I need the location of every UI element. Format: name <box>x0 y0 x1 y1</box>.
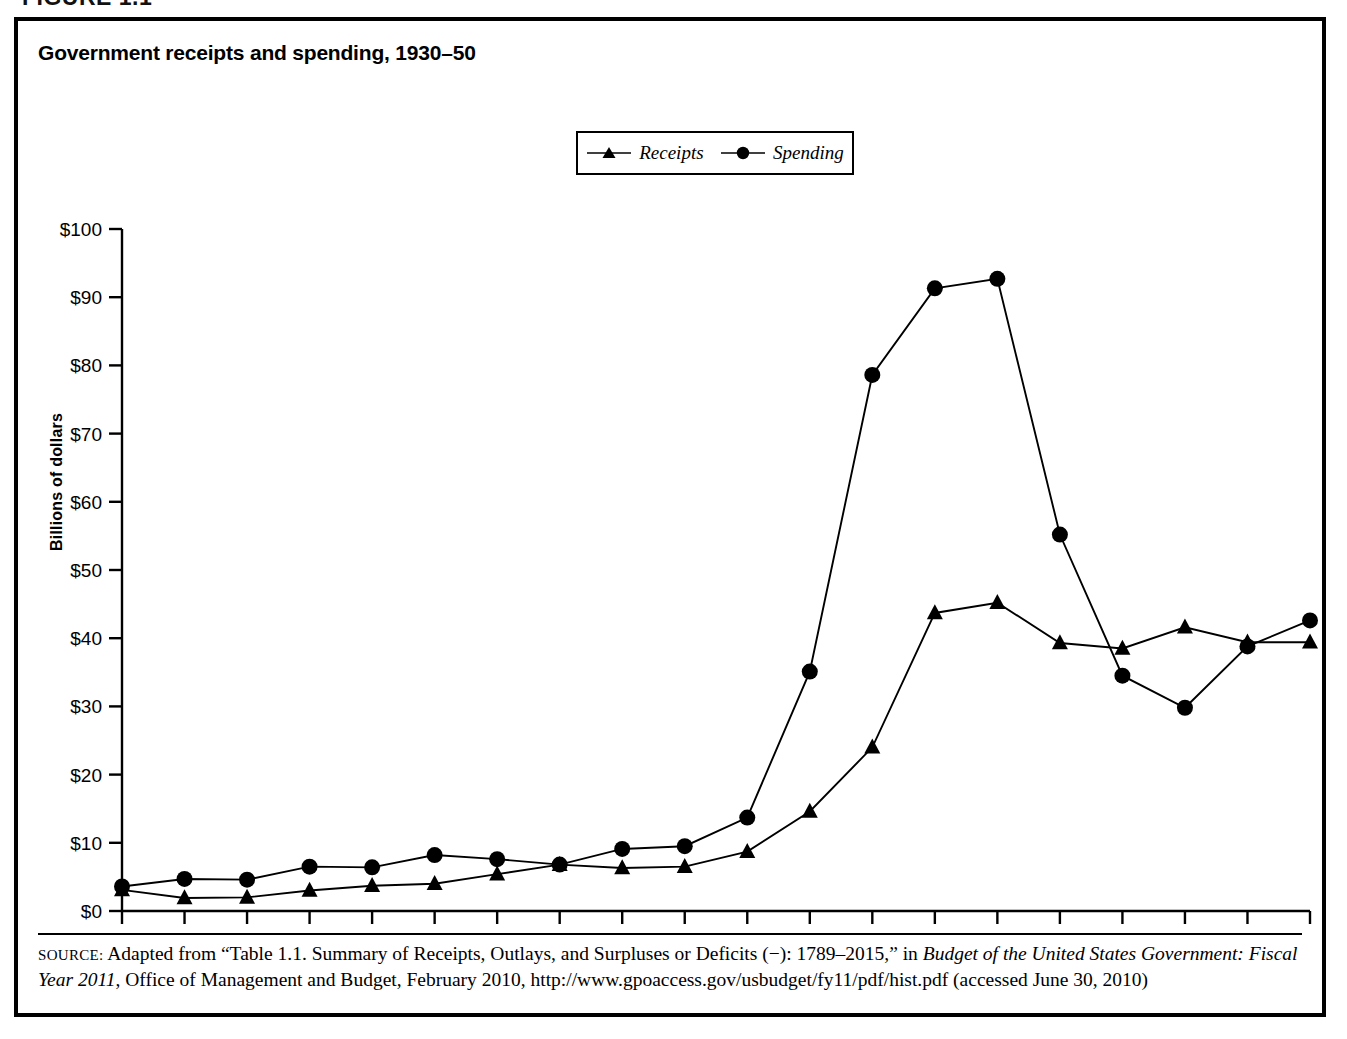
y-tick-label: $100 <box>60 219 102 240</box>
source-title-part1: Budget of the United States Government: <box>923 943 1244 964</box>
data-point-spending <box>114 878 130 894</box>
data-point-receipts <box>1052 634 1068 649</box>
data-point-spending <box>1239 638 1255 654</box>
data-point-spending <box>552 857 568 873</box>
data-point-receipts <box>989 594 1005 609</box>
figure-frame: Government receipts and spending, 1930–5… <box>14 17 1326 1017</box>
data-point-spending <box>739 810 755 826</box>
y-tick-label: $80 <box>70 355 102 376</box>
data-point-spending <box>1177 700 1193 716</box>
source-text-a: Adapted from “Table 1.1. Summary of Rece… <box>103 943 922 964</box>
data-point-receipts <box>364 877 380 892</box>
y-tick-label: $50 <box>70 560 102 581</box>
data-point-spending <box>489 851 505 867</box>
data-point-spending <box>177 871 193 887</box>
figure-number: FIGURE 1.1 <box>22 0 152 11</box>
series-line-spending <box>122 279 1310 887</box>
y-tick-label: $60 <box>70 492 102 513</box>
data-point-spending <box>302 859 318 875</box>
data-point-spending <box>927 280 943 296</box>
y-tick-label: $0 <box>81 901 102 922</box>
data-point-spending <box>1052 527 1068 543</box>
y-tick-label: $20 <box>70 765 102 786</box>
y-tick-label: $40 <box>70 628 102 649</box>
source-note: SOURCE: Adapted from “Table 1.1. Summary… <box>38 941 1308 993</box>
data-point-spending <box>1114 668 1130 684</box>
y-tick-label: $70 <box>70 424 102 445</box>
source-label: SOURCE: <box>38 947 103 963</box>
source-divider <box>38 933 1302 935</box>
data-point-receipts <box>739 843 755 858</box>
y-tick-label: $10 <box>70 833 102 854</box>
series-line-receipts <box>122 603 1310 898</box>
line-chart: $0$10$20$30$40$50$60$70$80$90$1001931193… <box>18 81 1322 931</box>
data-point-spending <box>1302 612 1318 628</box>
plot-area: $0$10$20$30$40$50$60$70$80$90$1001931193… <box>18 81 1322 931</box>
y-tick-label: $30 <box>70 696 102 717</box>
data-point-receipts <box>1177 619 1193 634</box>
data-point-spending <box>364 859 380 875</box>
data-point-spending <box>677 838 693 854</box>
chart-title: Government receipts and spending, 1930–5… <box>38 41 476 65</box>
data-point-spending <box>989 271 1005 287</box>
data-point-spending <box>427 847 443 863</box>
data-point-receipts <box>1302 634 1318 649</box>
data-point-spending <box>239 872 255 888</box>
data-point-receipts <box>864 739 880 754</box>
data-point-spending <box>614 841 630 857</box>
data-point-spending <box>802 664 818 680</box>
source-text-b: , Office of Management and Budget, Febru… <box>115 969 1148 990</box>
y-tick-label: $90 <box>70 287 102 308</box>
data-point-spending <box>864 367 880 383</box>
